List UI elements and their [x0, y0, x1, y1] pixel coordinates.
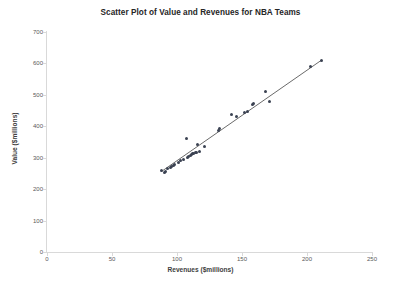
y-tick-label: 100: [13, 218, 43, 224]
y-tick-mark: [43, 95, 47, 96]
x-tick-mark: [372, 252, 373, 256]
x-tick-mark: [242, 252, 243, 256]
y-tick-mark: [43, 189, 47, 190]
y-tick-mark: [43, 126, 47, 127]
x-axis-line: [46, 252, 372, 253]
plot-area: [47, 32, 372, 252]
y-tick-mark: [43, 63, 47, 64]
x-tick-mark: [307, 252, 308, 256]
x-tick-label: 50: [97, 256, 127, 262]
x-tick-mark: [112, 252, 113, 256]
y-tick-label: 500: [13, 92, 43, 98]
y-tick-mark: [43, 158, 47, 159]
y-tick-label: 200: [13, 186, 43, 192]
y-tick-label: 0: [13, 249, 43, 255]
data-point[interactable]: [164, 170, 167, 173]
x-tick-label: 250: [357, 256, 387, 262]
y-tick-label: 700: [13, 29, 43, 35]
y-tick-label: 300: [13, 155, 43, 161]
x-axis-title: Revenues ($millions): [0, 266, 401, 273]
x-tick-label: 0: [32, 256, 62, 262]
y-tick-label: 400: [13, 123, 43, 129]
x-tick-label: 200: [292, 256, 322, 262]
x-tick-mark: [47, 252, 48, 256]
data-point[interactable]: [246, 110, 249, 113]
y-tick-label: 600: [13, 60, 43, 66]
scatter-chart: Scatter Plot of Value and Revenues for N…: [0, 0, 401, 282]
y-tick-mark: [43, 221, 47, 222]
trendline: [47, 32, 372, 252]
chart-title: Scatter Plot of Value and Revenues for N…: [0, 8, 401, 17]
x-tick-mark: [177, 252, 178, 256]
y-axis-title: Value ($millions): [11, 84, 18, 194]
data-point[interactable]: [203, 145, 206, 148]
data-point[interactable]: [320, 59, 323, 62]
data-point[interactable]: [198, 150, 201, 153]
x-tick-label: 150: [227, 256, 257, 262]
y-tick-mark: [43, 32, 47, 33]
x-tick-label: 100: [162, 256, 192, 262]
